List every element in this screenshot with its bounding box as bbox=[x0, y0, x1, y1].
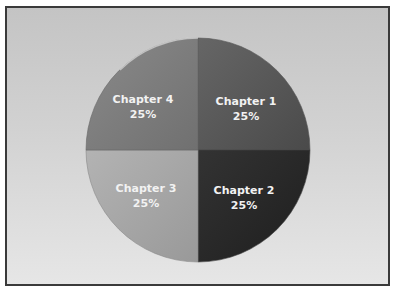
slice-chapter-1[interactable] bbox=[198, 38, 310, 150]
label-chapter-2-name: Chapter 2 bbox=[214, 184, 275, 197]
pie-chart: Chapter 1 25% Chapter 2 25% Chapter 3 25… bbox=[0, 0, 397, 299]
label-chapter-4-pct: 25% bbox=[130, 108, 156, 121]
label-chapter-3-pct: 25% bbox=[133, 197, 159, 210]
label-chapter-2-pct: 25% bbox=[231, 199, 257, 212]
label-chapter-1-pct: 25% bbox=[233, 110, 259, 123]
label-chapter-4-name: Chapter 4 bbox=[113, 93, 174, 106]
label-chapter-1-name: Chapter 1 bbox=[216, 95, 277, 108]
label-chapter-3-name: Chapter 3 bbox=[116, 182, 177, 195]
